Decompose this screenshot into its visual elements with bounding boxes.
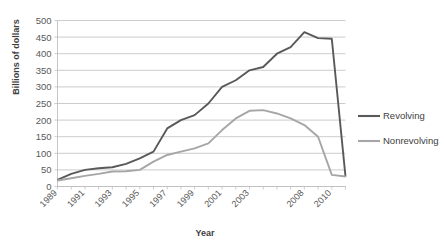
y-tick-label: 250 [36, 98, 52, 109]
x-tick-label: 2003 [230, 188, 251, 209]
y-tick-label: 200 [36, 115, 52, 126]
y-tick-label: 450 [36, 32, 52, 43]
x-tick-label: 1989 [38, 188, 59, 209]
series-line-revolving [58, 32, 346, 180]
y-tick-label: 150 [36, 131, 52, 142]
x-axis-ticks: 1989199119931995199719992001200320082010 [38, 187, 346, 210]
chart-legend: RevolvingNonrevolving [358, 110, 438, 146]
x-tick-label: 2001 [202, 188, 223, 209]
x-tick-label: 1991 [65, 188, 86, 209]
x-tick-label: 1993 [93, 188, 114, 209]
y-tick-label: 50 [41, 164, 52, 175]
line-chart: Billions of dollars Year 050100150200250… [0, 0, 444, 248]
y-tick-label: 100 [36, 148, 52, 159]
x-tick-label: 2010 [312, 188, 333, 209]
data-series [58, 32, 346, 180]
y-tick-label: 350 [36, 65, 52, 76]
y-tick-label: 300 [36, 81, 52, 92]
plot-area: 050100150200250300350400450500 198919911… [0, 0, 444, 248]
x-tick-label: 1995 [120, 188, 141, 209]
legend-label-revolving: Revolving [383, 110, 425, 121]
y-tick-label: 500 [36, 15, 52, 26]
x-tick-label: 1997 [147, 188, 168, 209]
gridlines [58, 21, 346, 187]
x-tick-label: 1999 [175, 188, 196, 209]
y-tick-label: 400 [36, 48, 52, 59]
x-tick-label: 2008 [285, 188, 306, 209]
legend-label-nonrevolving: Nonrevolving [383, 135, 438, 146]
y-axis-ticks: 050100150200250300350400450500 [36, 15, 58, 192]
